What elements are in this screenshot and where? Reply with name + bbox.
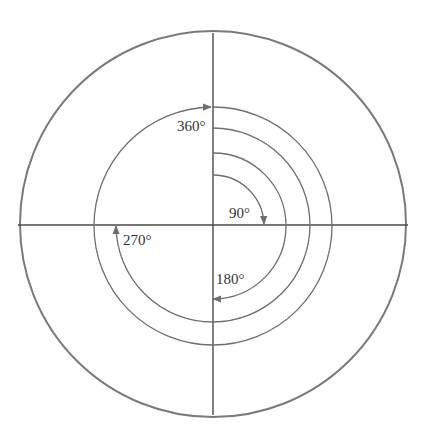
label-270: 270°: [123, 233, 152, 248]
label-360: 360°: [177, 119, 206, 134]
rotation-diagram: [0, 0, 427, 438]
label-180: 180°: [216, 272, 245, 287]
label-90: 90°: [229, 206, 250, 221]
